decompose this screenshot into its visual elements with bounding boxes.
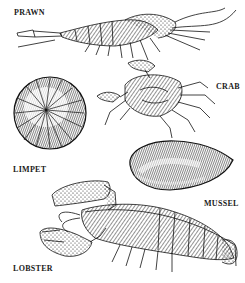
lobster-drawing — [40, 181, 237, 272]
crab-drawing — [97, 60, 215, 138]
limpet-drawing — [14, 77, 86, 149]
shellfish-illustration: PRAWN CRAB LIMPET MUSSEL LOBSTER — [0, 0, 245, 283]
prawn-drawing — [17, 8, 236, 60]
label-mussel: MUSSEL — [204, 199, 239, 208]
label-crab: CRAB — [216, 82, 240, 91]
label-prawn: PRAWN — [14, 8, 45, 17]
label-limpet: LIMPET — [13, 165, 46, 174]
mussel-drawing — [130, 141, 233, 190]
artwork — [0, 0, 245, 283]
label-lobster: LOBSTER — [13, 264, 53, 273]
